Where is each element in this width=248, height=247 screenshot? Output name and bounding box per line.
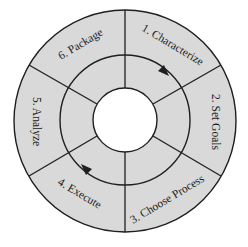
center-hub bbox=[93, 88, 157, 152]
step-5-label: 5. Analyze bbox=[30, 97, 43, 146]
step-2-label: 2. Set Goals bbox=[210, 94, 222, 150]
cycle-diagram: 1. Characterize 2. Set Goals 3. Choose P… bbox=[0, 0, 248, 247]
